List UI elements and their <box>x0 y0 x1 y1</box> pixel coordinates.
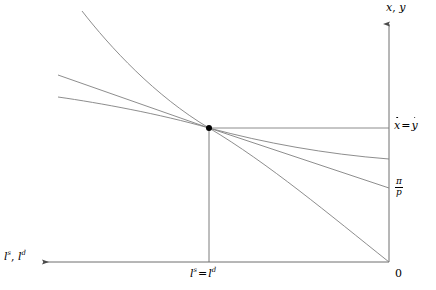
ydot-overdot <box>414 117 416 119</box>
xdot-ydot-operator: = <box>400 119 411 132</box>
xdot-symbol: x <box>394 120 400 131</box>
pi-over-p-numerator: π <box>395 177 403 188</box>
equilibrium-point-marker <box>206 125 212 131</box>
vertical-axis-label-y: y <box>399 1 405 14</box>
xdot-base: x <box>394 120 400 131</box>
equilibrium-labor-operator: = <box>197 267 208 280</box>
vertical-axis-label-separator: , <box>392 1 396 14</box>
horizontal-axis-label-separator: , <box>11 250 15 263</box>
ydot-base: y <box>411 120 417 131</box>
horizontal-axis-label-l-demand-sup: d <box>22 249 26 257</box>
horizontal-axis-label: ls, ld <box>4 251 26 262</box>
equilibrium-labor-label: ls=ld <box>190 268 216 279</box>
xdot-equals-ydot-label: x=y <box>394 120 418 131</box>
pi-over-p-label: π p <box>395 177 403 197</box>
diagram-canvas <box>0 0 436 290</box>
equilibrium-labor-demand-sup: d <box>212 266 216 274</box>
pi-over-p-denominator: p <box>395 188 403 198</box>
ydot-symbol: y <box>411 120 417 131</box>
phase-diagram-figure: x, y ls, ld ls=ld x=y π p 0 <box>0 0 436 290</box>
xdot-overdot <box>396 117 398 119</box>
origin-label: 0 <box>395 268 402 279</box>
pi-over-p-fraction: π p <box>395 177 403 197</box>
vertical-axis-label: x, y <box>386 2 405 13</box>
